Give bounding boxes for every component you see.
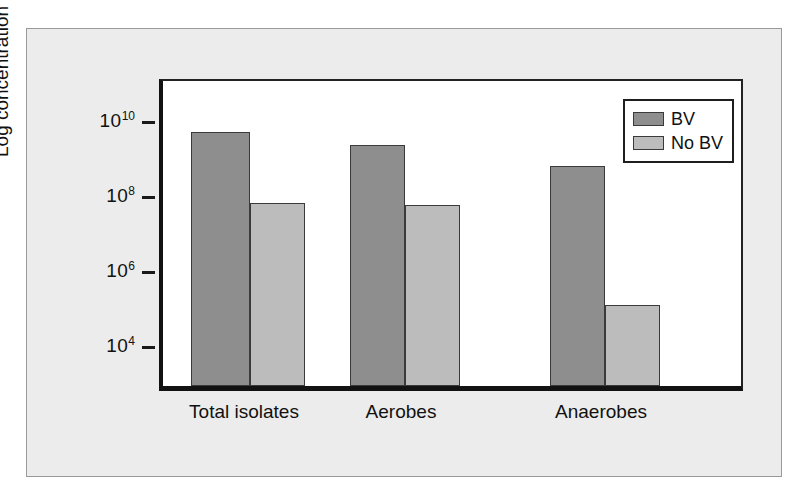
bar-total-isolates-bv xyxy=(191,132,250,386)
legend-label: BV xyxy=(671,110,695,128)
y-axis-title: Log concentration xyxy=(0,6,13,157)
legend-item: BV xyxy=(633,107,724,131)
bar-aerobes-bv xyxy=(350,145,405,386)
bar-aerobes-no-bv xyxy=(405,205,460,386)
x-axis-tick-label: Anaerobes xyxy=(511,401,691,423)
y-axis-tick-label: 104 xyxy=(27,334,135,357)
x-axis-tick-label: Aerobes xyxy=(311,401,491,423)
figure-panel: Log concentration 1041061081010 Total is… xyxy=(26,28,782,477)
bar-total-isolates-no-bv xyxy=(250,203,305,386)
x-axis-tick-label: Total isolates xyxy=(154,401,334,423)
legend-swatch-bv xyxy=(633,112,664,126)
y-axis-tick-label: 108 xyxy=(27,184,135,207)
y-axis-tick-label: 106 xyxy=(27,259,135,282)
legend-label: No BV xyxy=(671,134,723,152)
legend-swatch-no-bv xyxy=(633,136,664,150)
y-axis-tick-mark xyxy=(142,271,155,274)
bar-anaerobes-bv xyxy=(550,166,605,386)
y-axis-tick-mark xyxy=(142,196,155,199)
y-axis-tick-mark xyxy=(142,346,155,349)
legend-item: No BV xyxy=(633,131,724,155)
y-axis-tick-label: 1010 xyxy=(27,109,135,132)
y-axis-tick-mark xyxy=(142,121,155,124)
chart-legend: BVNo BV xyxy=(623,99,734,163)
bar-anaerobes-no-bv xyxy=(605,305,660,387)
